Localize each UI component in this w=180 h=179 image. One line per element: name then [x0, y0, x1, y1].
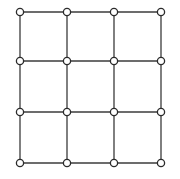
graph-node [157, 57, 164, 64]
edge-layer [20, 12, 161, 163]
graph-node [110, 108, 117, 115]
graph-canvas [0, 0, 180, 179]
graph-node [63, 159, 70, 166]
graph-node [63, 57, 70, 64]
graph-node [63, 8, 70, 15]
grid-graph-figure [0, 0, 180, 179]
graph-node [157, 108, 164, 115]
graph-node [16, 159, 23, 166]
graph-node [63, 108, 70, 115]
node-layer [16, 8, 164, 166]
graph-node [110, 8, 117, 15]
graph-node [16, 8, 23, 15]
graph-node [16, 108, 23, 115]
graph-node [157, 159, 164, 166]
graph-node [110, 159, 117, 166]
graph-node [157, 8, 164, 15]
graph-node [16, 57, 23, 64]
graph-node [110, 57, 117, 64]
